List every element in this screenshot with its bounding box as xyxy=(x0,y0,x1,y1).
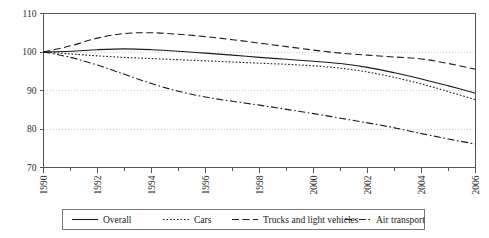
x-tick-label: 2002 xyxy=(363,175,373,194)
y-tick-label: 100 xyxy=(22,47,37,57)
x-tick-label: 1992 xyxy=(93,175,103,194)
x-tick-label: 2006 xyxy=(471,175,481,194)
chart-figure: 708090100110 199019921994199619982000200… xyxy=(0,0,489,238)
x-tick-label: 2000 xyxy=(309,175,319,194)
y-tick-label: 70 xyxy=(27,163,37,173)
line-chart: 708090100110 199019921994199619982000200… xyxy=(0,0,489,238)
legend-label-cars: Cars xyxy=(194,215,212,225)
chart-background xyxy=(0,0,489,238)
x-tick-label: 2004 xyxy=(417,175,427,194)
x-tick-label: 1994 xyxy=(147,175,157,194)
legend-label-overall: Overall xyxy=(103,215,132,225)
x-tick-label: 1998 xyxy=(255,175,265,194)
x-tick-label: 1990 xyxy=(39,175,49,194)
y-tick-label: 110 xyxy=(23,9,37,19)
y-tick-label: 90 xyxy=(27,86,37,96)
x-tick-label: 1996 xyxy=(201,175,211,194)
legend-label-trucks-and-light-vehicles: Trucks and light vehicles xyxy=(263,215,359,225)
y-tick-label: 80 xyxy=(27,124,37,134)
legend-label-air-transport: Air transport xyxy=(376,215,425,225)
